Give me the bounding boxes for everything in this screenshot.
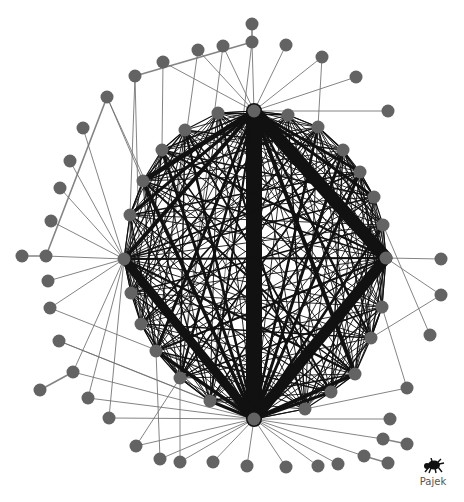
- graph-node: [157, 56, 170, 69]
- graph-node: [174, 456, 187, 469]
- graph-node: [246, 36, 259, 49]
- edge: [254, 45, 286, 111]
- graph-node: [384, 413, 397, 426]
- graph-node: [204, 395, 217, 408]
- graph-node: [129, 70, 142, 83]
- graph-node: [45, 215, 58, 228]
- hub-node: [248, 413, 261, 426]
- pajek-label: Pajek: [418, 476, 448, 487]
- edge: [254, 419, 364, 456]
- graph-node: [154, 453, 167, 466]
- edge: [223, 46, 254, 111]
- graph-node: [150, 345, 163, 358]
- graph-node: [124, 209, 137, 222]
- graph-node: [377, 219, 390, 232]
- graph-node: [435, 289, 448, 302]
- edge: [160, 419, 254, 459]
- graph-node: [103, 412, 116, 425]
- graph-node: [34, 384, 47, 397]
- graph-node: [435, 253, 448, 266]
- pajek-logo: Pajek: [418, 458, 448, 487]
- graph-node: [241, 460, 254, 473]
- edge: [180, 419, 254, 462]
- graph-node: [358, 450, 371, 463]
- graph-node: [101, 91, 114, 104]
- edge: [386, 258, 441, 259]
- edge: [254, 77, 356, 111]
- graph-node: [156, 144, 169, 157]
- graph-node: [207, 456, 220, 469]
- graph-node: [401, 382, 414, 395]
- graph-node: [401, 438, 414, 451]
- graph-node: [217, 40, 230, 53]
- edge: [136, 419, 254, 446]
- graph-node: [349, 368, 362, 381]
- graph-node: [16, 250, 29, 263]
- graph-node: [280, 39, 293, 52]
- edge: [109, 418, 254, 419]
- graph-node: [192, 44, 205, 57]
- graph-node: [64, 155, 77, 168]
- graph-node: [212, 107, 225, 120]
- graph-node: [316, 51, 329, 64]
- graph-node: [137, 175, 150, 188]
- graph-node: [135, 318, 148, 331]
- graph-node: [350, 71, 363, 84]
- graph-node: [125, 287, 138, 300]
- edge: [213, 419, 254, 462]
- edge: [254, 419, 318, 466]
- edge: [383, 225, 430, 335]
- edge: [252, 42, 254, 111]
- spider-icon: [420, 458, 446, 474]
- graph-node: [376, 301, 389, 314]
- edge: [109, 259, 124, 418]
- graph-node: [424, 329, 437, 342]
- edge: [124, 258, 386, 259]
- graph-node: [179, 124, 192, 137]
- edge: [386, 258, 441, 295]
- graph-node: [280, 461, 293, 474]
- edge: [156, 351, 160, 459]
- hub-node: [248, 105, 261, 118]
- edge: [382, 307, 407, 388]
- graph-node: [354, 166, 367, 179]
- graph-node: [368, 191, 381, 204]
- graph-node: [42, 275, 55, 288]
- graph-node: [382, 457, 395, 470]
- graph-node: [44, 302, 57, 315]
- graph-node: [365, 332, 378, 345]
- hub-node: [118, 253, 131, 266]
- edge: [130, 76, 135, 215]
- graph-node: [130, 440, 143, 453]
- hub-node: [380, 252, 393, 265]
- edge: [162, 62, 163, 150]
- graph-node: [82, 392, 95, 405]
- graph-node: [40, 250, 53, 263]
- graph-node: [377, 433, 390, 446]
- graph-node: [53, 335, 66, 348]
- graph-node: [332, 458, 345, 471]
- edge: [46, 256, 124, 259]
- graph-node: [382, 105, 395, 118]
- edge: [48, 259, 124, 281]
- network-graph-canvas: [0, 0, 464, 502]
- edge: [70, 161, 124, 259]
- edge: [60, 188, 124, 259]
- graph-node: [174, 372, 187, 385]
- graph-node: [54, 182, 67, 195]
- graph-node: [77, 122, 90, 135]
- graph-node: [312, 460, 325, 473]
- graph-node: [246, 18, 259, 31]
- graph-node: [337, 144, 350, 157]
- edge: [198, 50, 254, 111]
- edge: [254, 57, 322, 111]
- edge: [254, 419, 286, 467]
- graph-node: [325, 386, 338, 399]
- edge: [318, 57, 322, 127]
- edge: [83, 128, 124, 259]
- graph-node: [299, 403, 312, 416]
- graph-node: [282, 109, 295, 122]
- graph-node: [312, 121, 325, 134]
- edge: [163, 62, 254, 111]
- graph-node: [67, 366, 80, 379]
